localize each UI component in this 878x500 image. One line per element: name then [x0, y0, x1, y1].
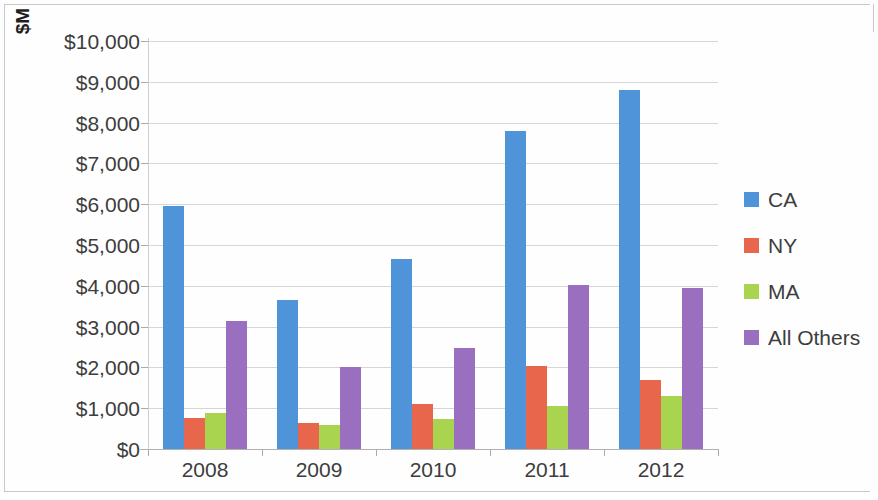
- bar-group-2010: [376, 41, 490, 449]
- bar-ma-2012[interactable]: [661, 396, 682, 449]
- x-axis-tick-label: 2010: [410, 458, 457, 482]
- legend-item-ma[interactable]: MA: [744, 268, 874, 314]
- x-axis-tick: [604, 449, 605, 456]
- y-axis-tick: [141, 204, 148, 205]
- bar-ca-2009[interactable]: [277, 300, 298, 449]
- y-axis-tick-label: $0: [117, 439, 140, 460]
- x-axis-tick-label: 2012: [638, 458, 685, 482]
- y-axis-tick: [141, 286, 148, 287]
- chart-frame-right-edge: [873, 4, 874, 32]
- x-axis-tick-label: 2008: [182, 458, 229, 482]
- x-axis-labels: 20082009201020112012: [148, 458, 718, 492]
- bar-ny-2010[interactable]: [412, 404, 433, 449]
- x-axis-line: [140, 449, 718, 450]
- y-axis-tick: [141, 82, 148, 83]
- bar-group-2011: [490, 41, 604, 449]
- chart-legend: CANYMAAll Others: [744, 176, 874, 360]
- bar-all-others-2009[interactable]: [340, 367, 361, 449]
- y-axis-title: $M: [6, 10, 40, 60]
- y-axis-tick: [141, 163, 148, 164]
- x-axis-tick: [262, 449, 263, 456]
- y-axis-tick-label: $7,000: [76, 153, 140, 174]
- y-axis-tick-label: $10,000: [64, 31, 140, 52]
- bar-ma-2009[interactable]: [319, 425, 340, 449]
- bar-ca-2010[interactable]: [391, 259, 412, 449]
- bar-all-others-2011[interactable]: [568, 285, 589, 449]
- legend-label: MA: [768, 281, 800, 302]
- y-axis-line: [148, 38, 149, 449]
- bar-all-others-2008[interactable]: [226, 321, 247, 449]
- y-axis-tick-label: $2,000: [76, 357, 140, 378]
- plot-inner: [148, 41, 718, 449]
- page-bottom-edge: [0, 492, 878, 500]
- bar-ca-2011[interactable]: [505, 131, 526, 449]
- bar-ca-2012[interactable]: [619, 90, 640, 449]
- y-axis-tick: [141, 367, 148, 368]
- y-axis-tick-label: $6,000: [76, 194, 140, 215]
- y-axis-tick: [141, 245, 148, 246]
- legend-item-all-others[interactable]: All Others: [744, 314, 874, 360]
- y-axis-tick-label: $8,000: [76, 112, 140, 133]
- x-axis-tick-label: 2011: [524, 458, 569, 482]
- bar-all-others-2012[interactable]: [682, 288, 703, 449]
- y-axis-tick: [141, 327, 148, 328]
- y-axis-tick-label: $3,000: [76, 316, 140, 337]
- x-axis-tick: [376, 449, 377, 456]
- legend-label: All Others: [768, 327, 860, 348]
- y-axis-tick-label: $5,000: [76, 235, 140, 256]
- y-axis-title-label: $M: [12, 8, 34, 34]
- y-axis-tick: [141, 41, 148, 42]
- legend-swatch-icon: [744, 330, 759, 345]
- bar-all-others-2010[interactable]: [454, 348, 475, 449]
- bar-ma-2011[interactable]: [547, 406, 568, 449]
- y-axis-tick-label: $4,000: [76, 275, 140, 296]
- y-axis-labels: $0$1,000$2,000$3,000$4,000$5,000$6,000$7…: [36, 41, 140, 449]
- y-axis-tick-label: $1,000: [76, 398, 140, 419]
- legend-swatch-icon: [744, 238, 759, 253]
- legend-label: NY: [768, 235, 797, 256]
- bar-group-2009: [262, 41, 376, 449]
- bar-ma-2008[interactable]: [205, 413, 226, 449]
- bar-ny-2011[interactable]: [526, 366, 547, 449]
- y-axis-tick: [141, 123, 148, 124]
- x-axis-tick: [718, 449, 719, 456]
- legend-swatch-icon: [744, 284, 759, 299]
- y-axis-tick-label: $9,000: [76, 71, 140, 92]
- bar-ny-2012[interactable]: [640, 380, 661, 449]
- chart-container: $M $0$1,000$2,000$3,000$4,000$5,000$6,00…: [0, 0, 878, 500]
- legend-item-ca[interactable]: CA: [744, 176, 874, 222]
- bar-ny-2008[interactable]: [184, 418, 205, 449]
- x-axis-tick: [490, 449, 491, 456]
- plot-area: [148, 41, 718, 449]
- bar-group-2008: [148, 41, 262, 449]
- x-axis-tick-label: 2009: [296, 458, 343, 482]
- y-axis-tick: [141, 408, 148, 409]
- legend-label: CA: [768, 189, 797, 210]
- bar-ma-2010[interactable]: [433, 419, 454, 449]
- legend-item-ny[interactable]: NY: [744, 222, 874, 268]
- bar-ny-2009[interactable]: [298, 423, 319, 449]
- x-axis-tick: [148, 449, 149, 456]
- bar-group-2012: [604, 41, 718, 449]
- bar-ca-2008[interactable]: [163, 206, 184, 449]
- legend-swatch-icon: [744, 192, 759, 207]
